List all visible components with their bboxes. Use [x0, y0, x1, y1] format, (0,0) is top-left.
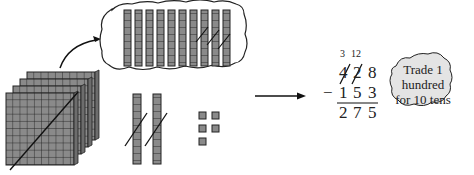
tens-rods-below — [125, 94, 167, 164]
minus-sign: − — [323, 83, 333, 103]
callout-line-3: for 10 tens — [388, 92, 458, 107]
result-tens: 7 — [353, 103, 362, 123]
subtrahend-tens: 5 — [353, 83, 362, 103]
callout-line-1: Trade 1 — [388, 62, 458, 77]
ones-units — [199, 112, 219, 145]
regroup-tens: 12 — [351, 48, 361, 59]
result-ones: 5 — [368, 103, 377, 123]
minuend-ones: 8 — [368, 63, 377, 83]
result-hundreds: 2 — [339, 103, 348, 123]
subtrahend-ones: 3 — [368, 83, 377, 103]
regroup-hundreds: 3 — [340, 48, 345, 59]
hundreds-flats — [6, 70, 99, 170]
subtrahend-hundreds: 1 — [339, 83, 348, 103]
callout-line-2: hundred — [388, 77, 458, 92]
trade-arrow — [60, 40, 96, 68]
callout-text: Trade 1 hundred for 10 tens — [388, 62, 458, 107]
minuend-tens: 2 — [353, 63, 362, 83]
minuend-hundreds: 4 — [339, 63, 348, 83]
